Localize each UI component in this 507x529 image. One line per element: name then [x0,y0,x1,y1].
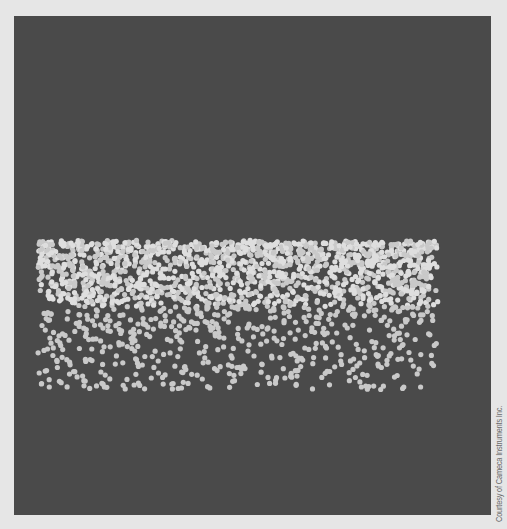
atom-dot [426,297,431,302]
atom-dot [216,278,221,283]
atom-dot [417,275,422,280]
atom-dot [165,285,170,290]
atom-dot [89,358,94,363]
atom-dot [371,308,376,313]
atom-dot [332,300,337,305]
atom-dot [101,382,106,387]
atom-dot [318,291,323,296]
atom-dot [329,265,334,270]
atom-dot [83,277,88,282]
atom-dot [243,299,248,304]
atom-dot [134,304,139,309]
atom-dot [289,375,294,380]
atom-dot [148,290,153,295]
atom-dot [103,247,108,252]
atom-dot [296,328,301,333]
atom-dot [178,346,183,351]
atom-dot [217,335,222,340]
atom-dot [393,282,398,287]
atom-dot [351,356,356,361]
atom-dot [196,294,201,299]
atom-dot [351,288,356,293]
atom-dot [194,282,199,287]
atom-dot [259,370,264,375]
atom-dot [429,245,434,250]
atom-dot [217,260,222,265]
atom-dot [148,253,153,258]
atom-dot [76,240,81,245]
atom-dot [353,312,358,317]
atom-dot [95,241,100,246]
atom-dot [315,254,320,259]
atom-dot [325,330,330,335]
atom-dot [193,328,198,333]
atom-dot [213,331,218,336]
atom-dot [399,245,404,250]
atom-dot [248,241,253,246]
atom-dot [194,276,199,281]
atom-dot [197,260,202,265]
atom-dot [379,318,384,323]
atom-dot [142,386,147,391]
atom-dot [350,323,355,328]
atom-dot [300,256,305,261]
atom-dot [72,329,77,334]
atom-dot [193,305,198,310]
atom-dot [367,328,372,333]
atom-dot [333,289,338,294]
atom-dot [296,280,301,285]
atom-dot [262,250,267,255]
atom-dot [375,354,380,359]
atom-dot [218,287,223,292]
atom-dot [116,244,121,249]
atom-dot [359,262,364,267]
atom-dot [70,253,75,258]
atom-dot [247,292,252,297]
atom-dot [202,271,207,276]
atom-dot [335,281,340,286]
atom-dot [83,334,88,339]
atom-dot [183,259,188,264]
atom-dot [269,355,274,360]
atom-dot [321,240,326,245]
atom-dot [124,377,129,382]
atom-dot [172,256,177,261]
atom-dot [268,293,273,298]
atom-dot [60,355,65,360]
atom-dot [366,384,371,389]
atom-dot [297,250,302,255]
atom-dot [324,345,329,350]
atom-dot [50,242,55,247]
atom-dot [286,241,291,246]
atom-dot [81,253,86,258]
atom-dot [255,382,260,387]
atom-dot [221,336,226,341]
atom-dot [199,285,204,290]
atom-dot [242,267,247,272]
atom-dot [418,318,423,323]
atom-dot [361,249,366,254]
atom-dot [303,293,308,298]
atom-dot [149,375,154,380]
atom-dot [72,283,77,288]
atom-dot [376,363,381,368]
atom-dot [155,252,160,257]
atom-dot [315,268,320,273]
atom-dot [408,357,413,362]
atom-dot [421,270,426,275]
atom-dot [122,240,127,245]
atom-dot [376,276,381,281]
atom-dot [282,375,287,380]
atom-dot [432,261,437,266]
atom-dot [132,263,137,268]
atom-dot [323,355,328,360]
atom-dot [321,326,326,331]
atom-dot [263,269,268,274]
atom-dot [398,337,403,342]
atom-dot [370,264,375,269]
atom-dot [186,325,191,330]
atom-dot [43,328,48,333]
atom-dot [103,373,108,378]
atom-dot [173,304,178,309]
atom-dot [94,313,99,318]
